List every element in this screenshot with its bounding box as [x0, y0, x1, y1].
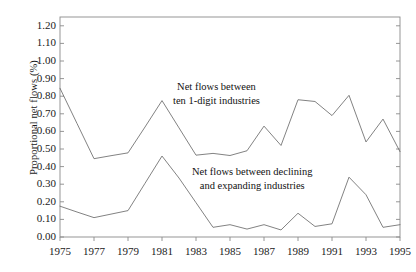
x-axis-tick-label: 1983: [185, 245, 207, 257]
upper-series-annotation: Net flows between ten 1-digit industries: [173, 80, 260, 108]
x-axis-tick-label: 1991: [321, 245, 343, 257]
y-axis-tick-label: 1.10: [37, 37, 56, 48]
x-axis-tick-label: 1989: [287, 245, 309, 257]
y-axis-tick-label: 0.50: [37, 143, 56, 154]
x-axis-tick-label: 1977: [83, 245, 105, 257]
y-axis-tick-label: 0.40: [37, 161, 56, 172]
y-axis-tick-label: 1.00: [37, 55, 56, 66]
x-axis-ticks: [60, 237, 400, 241]
y-axis-tick-label: 0.30: [37, 178, 56, 189]
plot-frame: [60, 17, 400, 237]
x-axis-tick-label: 1995: [389, 245, 411, 257]
y-axis-tick-label: 0.70: [37, 108, 56, 119]
data-series-lines: [60, 88, 400, 230]
y-axis-tick-label: 0.20: [37, 196, 56, 207]
y-axis-tick-label: 0.00: [37, 231, 56, 242]
upper-series-annotation-line-2: ten 1-digit industries: [173, 94, 260, 108]
x-axis-tick-label: 1981: [151, 245, 173, 257]
plot-area: [0, 0, 416, 272]
lower-series-annotation-line-1: Net flows between declining: [192, 165, 312, 179]
upper-series-annotation-line-1: Net flows between: [173, 80, 260, 94]
x-axis-tick-label: 1987: [253, 245, 275, 257]
y-axis-tick-label: 0.90: [37, 73, 56, 84]
lower-series-annotation-line-2: and expanding industries: [192, 179, 312, 193]
x-axis-tick-label: 1993: [355, 245, 377, 257]
y-axis-tick-label: 1.20: [37, 20, 56, 31]
x-axis-tick-label: 1979: [117, 245, 139, 257]
y-axis-ticks: [60, 26, 400, 237]
chart-figure: Proportional net flows (%) 0.000.100.200…: [0, 0, 416, 272]
y-axis-tick-label: 0.80: [37, 90, 56, 101]
y-axis-tick-label: 0.60: [37, 125, 56, 136]
lower-series-annotation: Net flows between declining and expandin…: [192, 165, 312, 193]
y-axis-tick-label: 0.10: [37, 213, 56, 224]
x-axis-tick-label: 1975: [49, 245, 71, 257]
x-axis-tick-label: 1985: [219, 245, 241, 257]
